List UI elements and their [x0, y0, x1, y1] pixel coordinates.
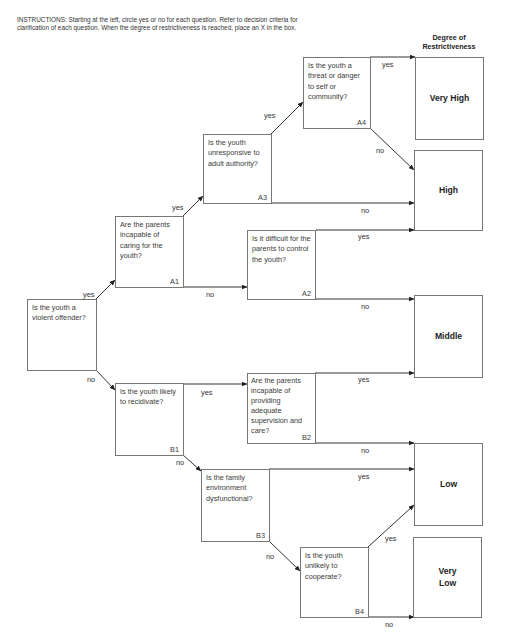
question-text: Are the parents incapable of providing a… [251, 376, 302, 435]
outcome-label: Very High [430, 93, 470, 105]
outcome-label: High [439, 185, 458, 197]
question-b1: Is the youth likely to recidivate? B1 [115, 383, 184, 456]
question-text: Is it difficult for the parents to contr… [252, 234, 311, 264]
outcome-very-low-box[interactable]: Very Low [413, 537, 482, 618]
outcome-very-high-box[interactable]: Very High [415, 57, 484, 140]
question-text: Are the parents incapable of caring for … [120, 220, 170, 260]
question-code: A4 [357, 118, 366, 127]
question-b2: Are the parents incapable of providing a… [247, 373, 316, 444]
question-text: Is the youth a threat or danger to self … [308, 61, 360, 101]
question-b4: Is the youth unlikely to cooperate? B4 [300, 547, 369, 618]
b4-yes-label[interactable]: yes [385, 534, 397, 543]
outcome-label: Middle [435, 331, 462, 343]
question-code: A1 [170, 277, 179, 286]
question-a1: Are the parents incapable of caring for … [115, 216, 184, 288]
outcome-low-box[interactable]: Low [414, 443, 483, 526]
question-code: B1 [170, 445, 179, 454]
b2-no-label[interactable]: no [361, 446, 369, 455]
question-text: Is the youth unlikely to cooperate? [305, 551, 343, 581]
start-yes-label[interactable]: yes [83, 290, 95, 299]
b4-no-label[interactable]: no [385, 620, 393, 629]
outcome-label: Very Low [432, 566, 464, 589]
a1-no-label[interactable]: no [206, 290, 214, 299]
b1-yes-label[interactable]: yes [201, 388, 213, 397]
question-code: B2 [302, 433, 311, 442]
question-code: B3 [256, 531, 265, 540]
question-text: Is the youth unresponsive to adult autho… [208, 138, 260, 168]
b3-no-label[interactable]: no [266, 552, 274, 561]
question-a3: Is the youth unresponsive to adult autho… [203, 134, 272, 204]
a4-no-label[interactable]: no [376, 146, 384, 155]
outcome-label: Low [440, 479, 457, 491]
question-a2: Is it difficult for the parents to contr… [247, 230, 316, 300]
outcome-high-box[interactable]: High [414, 150, 483, 231]
question-code: A2 [302, 289, 311, 298]
b3-yes-label[interactable]: yes [358, 472, 370, 481]
a2-yes-label[interactable]: yes [358, 232, 370, 241]
a3-no-label[interactable]: no [361, 206, 369, 215]
start-no-label[interactable]: no [87, 375, 95, 384]
outcome-middle-box[interactable]: Middle [414, 295, 483, 378]
a1-yes-label[interactable]: yes [172, 203, 184, 212]
question-a4: Is the youth a threat or danger to self … [303, 57, 371, 129]
b2-yes-label[interactable]: yes [358, 375, 370, 384]
question-text: Is the youth a violent offender? [32, 303, 86, 322]
question-code: B4 [355, 607, 364, 616]
a4-yes-label[interactable]: yes [382, 60, 394, 69]
question-b3: Is the family environment dysfunctional?… [201, 469, 270, 542]
a3-yes-label[interactable]: yes [264, 111, 276, 120]
question-code: A3 [258, 193, 267, 202]
b1-no-label[interactable]: no [176, 458, 184, 467]
question-text: Is the family environment dysfunctional? [206, 473, 253, 503]
question-start-violent-offender: Is the youth a violent offender? [27, 299, 97, 371]
question-text: Is the youth likely to recidivate? [120, 387, 176, 406]
a2-no-label[interactable]: no [361, 302, 369, 311]
